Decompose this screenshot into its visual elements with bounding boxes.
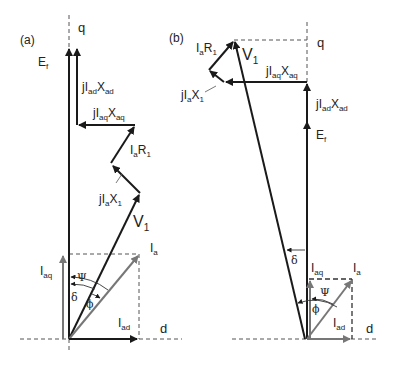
jiax1-phasor <box>113 166 140 193</box>
phi-label: ϕ <box>86 298 94 311</box>
panel-a-label: (a) <box>20 33 35 47</box>
delta-arc <box>71 284 95 289</box>
phi-label: ϕ <box>312 303 320 316</box>
iaq-label: Iaq <box>40 264 52 280</box>
jiax1-leader-line <box>205 86 216 92</box>
panel-a: (a) q d Ef jIadXad j <box>20 15 182 352</box>
ef-label: Ef <box>38 55 49 71</box>
iad-label: Iad <box>333 316 345 332</box>
jiax1-leader-line <box>116 174 122 183</box>
panel-b: (b) q d IaR1 jIaX1 V <box>169 22 378 339</box>
psi-label: Ψ <box>320 286 330 299</box>
delta-label: δ <box>71 291 78 304</box>
d-axis-label: d <box>160 321 167 336</box>
v1-phasor <box>235 42 305 339</box>
v1-label: V1 <box>242 46 259 66</box>
jiax1-phasor <box>210 71 224 82</box>
ef-label: Ef <box>316 128 327 144</box>
jiaqxaq-label: jIaqXaq <box>92 106 125 122</box>
d-axis-label: d <box>366 321 373 336</box>
iaq-label: Iaq <box>311 261 323 277</box>
jiadxad-label: jIadXad <box>315 97 348 113</box>
q-axis-label: q <box>78 20 85 35</box>
jiadxad-label: jIadXad <box>81 80 114 96</box>
ia-label: Ia <box>150 241 158 257</box>
psi-label: Ψ <box>77 271 87 284</box>
jiax1-label: jIaX1 <box>98 192 122 208</box>
iar1-label: IaR1 <box>130 143 151 159</box>
q-axis-label: q <box>317 35 324 50</box>
iar1-label: IaR1 <box>196 41 217 57</box>
jiax1-label: jIaX1 <box>180 88 204 104</box>
phasor-diagram: (a) q d Ef jIadXad j <box>0 0 395 367</box>
delta-label: δ <box>291 254 298 267</box>
iad-label: Iad <box>118 316 130 332</box>
ia-label: Ia <box>353 261 361 277</box>
v1-label: V1 <box>133 213 150 233</box>
panel-b-label: (b) <box>169 31 184 45</box>
jiaqxaq-label: jIaqXaq <box>265 64 298 80</box>
